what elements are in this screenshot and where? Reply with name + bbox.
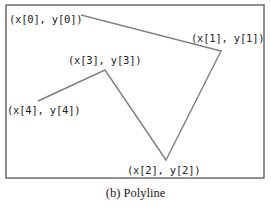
figure-caption: (b) Polyline	[0, 186, 271, 201]
label-vertex-1: (x[1], y[1])	[191, 32, 264, 44]
label-vertex-0: (x[0], y[0])	[9, 13, 82, 25]
label-vertex-3: (x[3], y[3])	[68, 54, 141, 66]
label-vertex-2: (x[2], y[2])	[127, 164, 200, 176]
polyline-figure: (x[0], y[0]) (x[1], y[1]) (x[3], y[3]) (…	[0, 0, 271, 208]
label-vertex-4: (x[4], y[4])	[7, 104, 80, 116]
figure-frame	[6, 5, 264, 178]
